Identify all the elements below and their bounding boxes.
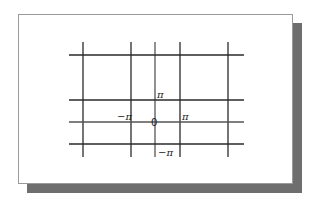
grid-diagram: π −π 0 π −π [0, 0, 325, 208]
label-right-pi: π [181, 111, 189, 122]
label-left-neg-pi: −π [117, 111, 132, 122]
label-top-pi: π [156, 89, 164, 100]
label-bottom-neg-pi: −π [158, 147, 173, 158]
label-origin-zero: 0 [151, 117, 157, 128]
